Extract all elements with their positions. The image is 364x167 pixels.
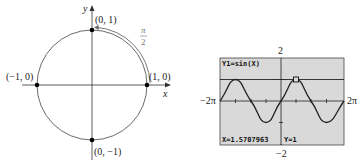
equation-label: Y1=sin(X) <box>222 60 260 68</box>
calculator-screen <box>220 58 344 145</box>
x-axis-label: x <box>162 88 168 99</box>
arc-label-numerator: π <box>141 25 146 35</box>
y-axis-label: y <box>82 3 88 14</box>
xmax-label: 2π <box>347 95 357 106</box>
point-0-1 <box>90 28 95 33</box>
x-axis-arrow-icon <box>165 83 171 88</box>
arc-label-denominator: 2 <box>141 37 146 47</box>
point-0-neg1 <box>90 138 95 143</box>
ymax-label: 2 <box>278 45 283 56</box>
arc-arrow-icon <box>94 25 99 30</box>
point-label-bottom: (0, −1) <box>94 146 121 158</box>
y-axis-arrow-icon <box>90 5 95 11</box>
point-label-left: (−1, 0) <box>6 71 33 83</box>
figure: y x (0, 1) (−1, 0) (1, 0) (0, −1) π 2 Y1… <box>0 0 364 167</box>
cursor-y-value: Y=1 <box>284 136 297 144</box>
ymin-label: −2 <box>276 148 287 159</box>
point-label-right: (1, 0) <box>149 71 171 83</box>
xmin-label: −2π <box>200 95 216 106</box>
calculator-graph: Y1=sin(X) X=1.5707963 Y=1 2 −2 −2π 2π <box>200 45 357 159</box>
point-1-0 <box>145 83 150 88</box>
cursor-x-value: X=1.5707963 <box>222 136 268 144</box>
point-label-top: (0, 1) <box>95 14 117 26</box>
unit-circle-diagram: y x (0, 1) (−1, 0) (1, 0) (0, −1) π 2 <box>6 3 171 160</box>
trace-cursor[interactable] <box>294 77 299 82</box>
arc-pi-over-2 <box>96 27 150 83</box>
point-neg1-0 <box>35 83 40 88</box>
